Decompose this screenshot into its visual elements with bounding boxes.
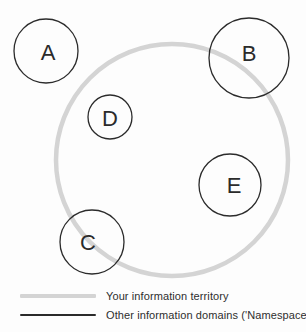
namespace-label-C: C: [80, 230, 96, 255]
venn-diagram: ABDEC: [0, 0, 306, 332]
namespace-label-D: D: [102, 106, 118, 131]
namespace-label-B: B: [242, 41, 257, 66]
namespace-label-A: A: [41, 40, 56, 65]
figure-venn-namespaces: ABDEC Your information territory Other i…: [0, 0, 306, 332]
namespace-label-E: E: [227, 173, 242, 198]
